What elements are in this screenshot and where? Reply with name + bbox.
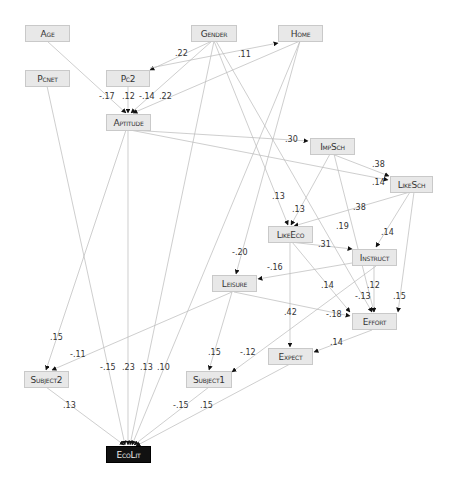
coef-effort-expect: .14 — [330, 338, 343, 347]
node-home: Home — [278, 25, 323, 42]
coef-expect-ecolit: .15 — [200, 401, 213, 410]
coef-instruct-leisure: -.16 — [267, 263, 283, 272]
node-age: Age — [25, 25, 70, 42]
coef-instruct-subject1: -.12 — [240, 348, 256, 357]
coef-impsch-likeeco: .13 — [292, 205, 305, 214]
coef-subject1-ecolit: -.15 — [173, 401, 189, 410]
coef-home-ecolit: .10 — [157, 363, 170, 372]
node-gender: Gender — [191, 25, 237, 42]
coef-likeeco-instruct: .31 — [318, 240, 331, 249]
node-leisure: Leisure — [212, 275, 257, 292]
node-pcnet: Pcnet — [25, 70, 70, 87]
path-diagram: Age Pcnet Pc2 Gender Home Aptitude ImpSc… — [0, 0, 457, 485]
coef-subject2-ecolit: .13 — [63, 401, 76, 410]
coef-gender-ecolit: .13 — [140, 363, 153, 372]
node-aptitude: Aptitude — [106, 114, 151, 131]
coef-aptitude-ecolit: .23 — [122, 363, 135, 372]
coef-likeeco-effort: .14 — [321, 281, 334, 290]
coef-likesch-likeeco: .38 — [353, 203, 366, 212]
node-expect: Expect — [268, 348, 313, 365]
coef-likeeco-expect: .42 — [284, 308, 297, 317]
node-impsch: ImpSch — [310, 138, 355, 155]
coef-gender-likeeco: .13 — [272, 192, 285, 201]
coef-gender-pc2: .22 — [175, 49, 188, 58]
coef-leisure-subject2: -.11 — [70, 350, 86, 359]
node-effort: Effort — [352, 313, 397, 330]
coef-home-leisure: -.20 — [232, 248, 248, 257]
coef-likesch-instruct: .14 — [381, 228, 394, 237]
coef-instruct-effort: .12 — [367, 281, 380, 290]
coef-pcnet-ecolit: -.15 — [100, 363, 116, 372]
node-subject2: Subject2 — [24, 371, 69, 388]
coef-gender-home: .11 — [238, 50, 251, 59]
node-subject1: Subject1 — [186, 371, 232, 388]
coef-aptitude-subject2: .15 — [50, 333, 63, 342]
coef-gender-aptitude: -.14 — [139, 92, 155, 101]
coef-impsch-likesch: .38 — [372, 160, 385, 169]
coef-home-aptitude: .22 — [159, 92, 172, 101]
node-instruct: Instruct — [352, 249, 397, 266]
node-likeeco: LikeEco — [268, 226, 313, 243]
coef-gender-effort: -.13 — [355, 292, 371, 301]
node-pc2: Pc2 — [106, 70, 150, 87]
coef-aptitude-likesch: .14 — [372, 178, 385, 187]
coef-age-aptitude: -.17 — [99, 92, 115, 101]
node-ecolit: EcoLit — [106, 446, 151, 463]
coef-likesch-effort: .15 — [393, 292, 406, 301]
coef-leisure-subject1: .15 — [208, 348, 221, 357]
node-likesch: LikeSch — [390, 176, 433, 193]
coef-aptitude-impsch: .30 — [285, 135, 298, 144]
coef-impsch-effort: .19 — [336, 222, 349, 231]
coef-pc2-aptitude: .12 — [122, 92, 135, 101]
coef-leisure-effort: -.18 — [326, 310, 342, 319]
